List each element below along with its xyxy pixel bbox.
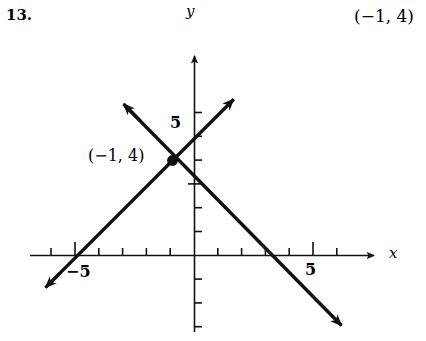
x-axis-label: x xyxy=(389,246,397,261)
line-falling-upper-arrow xyxy=(124,104,141,121)
falling-line-segment xyxy=(126,107,342,326)
line-rising-lower-arrow xyxy=(46,273,61,288)
x-tick-label-5: 5 xyxy=(305,262,316,278)
y-tick-label-5: 5 xyxy=(170,115,181,131)
x-tick-label-negative-5: −5 xyxy=(66,264,91,280)
coordinate-plane xyxy=(0,0,426,341)
y-axis xyxy=(188,56,202,332)
point-coordinate-label: (−1, 4) xyxy=(88,148,144,164)
intersection-point-marker xyxy=(167,155,178,166)
y-axis-label: y xyxy=(186,4,194,19)
line-falling xyxy=(126,107,345,328)
line-rising xyxy=(0,0,236,284)
problem-figure: 13. (−1, 4) xyxy=(0,0,426,341)
